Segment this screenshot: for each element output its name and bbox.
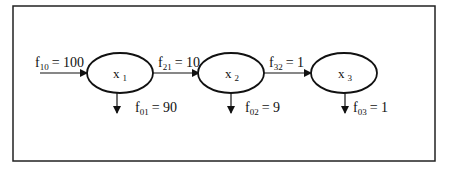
label-f01: f01= 90: [135, 100, 177, 117]
label-f02: f02= 9: [245, 100, 280, 117]
label-f21: f21= 10: [158, 55, 200, 72]
label-f03: f03= 1: [353, 100, 388, 117]
label-f10: f10= 100: [35, 55, 84, 72]
flow-diagram: f10= 100 x1 f21= 10 f01= 90 x2 f32= 1 f0…: [0, 0, 449, 173]
label-f32: f32= 1: [269, 55, 304, 72]
node-x1: [87, 53, 153, 93]
